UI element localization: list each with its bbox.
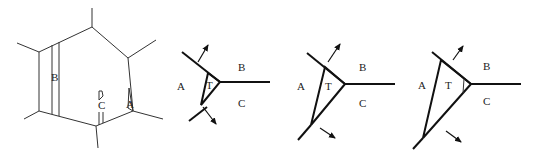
arrow-up: [198, 45, 208, 62]
arrow-up: [328, 44, 340, 62]
label-t: T: [325, 80, 332, 92]
label-b: B: [483, 60, 490, 72]
label-b: B: [359, 61, 366, 73]
stub-lower-left: [24, 111, 39, 119]
label-c: C: [483, 95, 490, 107]
arrow-down: [203, 107, 216, 124]
label-a: A: [297, 80, 305, 92]
label-b: B: [238, 61, 245, 73]
stage-3-figure: A T B C: [413, 46, 521, 149]
diagram-canvas: B C A A T B C A T B C: [0, 0, 534, 158]
triangle-t: [423, 60, 471, 138]
stub-bottom: [96, 126, 98, 148]
label-c: C: [359, 97, 366, 109]
stage-1-figure: A T B C: [177, 45, 270, 124]
triangle-t: [311, 67, 345, 125]
label-t: T: [206, 79, 213, 91]
label-t: T: [445, 79, 452, 91]
stage-2-figure: A T B C: [297, 44, 395, 140]
edge-lower: [298, 125, 311, 140]
arrow-down: [320, 128, 335, 138]
label-a: A: [126, 98, 134, 110]
label-b: B: [51, 71, 58, 83]
stub-upper-left: [17, 43, 39, 52]
label-c: C: [98, 99, 105, 111]
label-a: A: [177, 80, 185, 92]
stub-lower-right: [133, 111, 163, 119]
arrow-down: [446, 131, 461, 142]
stub-upper-right: [128, 40, 156, 58]
edge-lower: [413, 138, 423, 149]
arrow-up: [453, 46, 463, 60]
hexagon-figure: B C A: [17, 8, 163, 148]
label-c: C: [238, 97, 245, 109]
label-a: A: [418, 79, 426, 91]
